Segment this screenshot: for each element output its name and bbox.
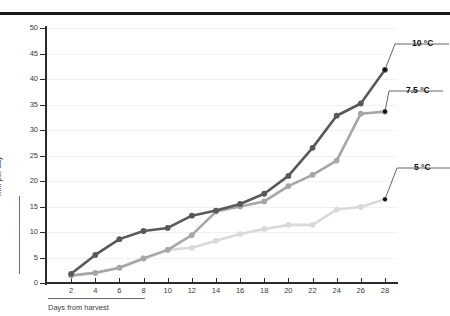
data-point	[310, 172, 316, 178]
data-point	[213, 208, 219, 214]
series-leader-line	[385, 168, 450, 199]
data-point	[358, 111, 364, 117]
data-point	[165, 225, 171, 231]
data-point	[68, 271, 74, 277]
data-point	[285, 183, 291, 189]
series-endpoint-dot	[383, 68, 387, 72]
data-point	[310, 222, 316, 228]
data-point	[213, 238, 219, 244]
data-point	[117, 265, 123, 271]
data-point	[92, 270, 98, 276]
data-point	[334, 158, 340, 164]
data-point	[189, 213, 195, 219]
data-point	[117, 236, 123, 242]
series-label-75c: 7.5 °C	[406, 85, 430, 95]
data-point	[237, 201, 243, 207]
data-point	[285, 173, 291, 179]
series-layer	[0, 0, 450, 316]
data-point	[189, 232, 195, 238]
data-point	[141, 256, 147, 262]
series-label-10c: 10 °C	[412, 38, 433, 48]
data-point	[358, 204, 364, 210]
series-line	[71, 112, 385, 276]
data-point	[334, 113, 340, 119]
data-point	[189, 245, 195, 251]
series-line	[71, 70, 385, 274]
series-label-5c: 5 °C	[414, 162, 431, 172]
data-point	[261, 191, 267, 197]
series-endpoint-dot	[383, 110, 387, 114]
data-point	[261, 199, 267, 205]
data-point	[92, 252, 98, 258]
data-point	[261, 226, 267, 232]
data-point	[358, 101, 364, 107]
data-point	[334, 207, 340, 213]
data-point	[237, 231, 243, 237]
data-point	[285, 222, 291, 228]
data-point	[165, 247, 171, 253]
chart-figure: 05101520253035404550 2468101214161820222…	[0, 0, 450, 316]
data-point	[310, 145, 316, 151]
series-endpoint-dot	[383, 197, 387, 201]
data-point	[141, 228, 147, 234]
